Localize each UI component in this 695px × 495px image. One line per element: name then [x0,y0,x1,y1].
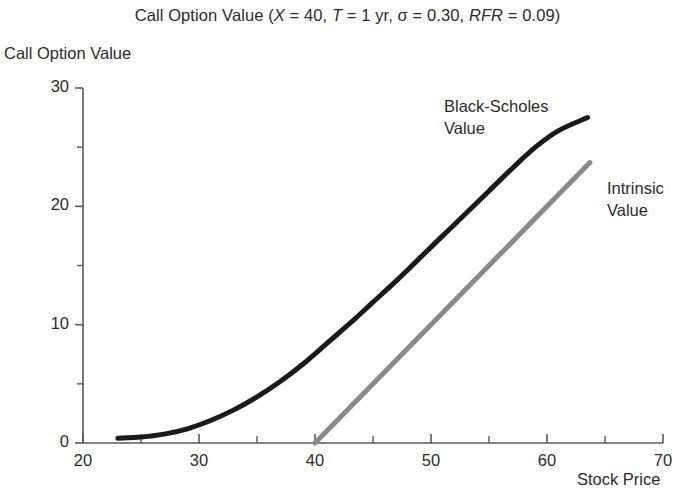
x-tick-label: 40 [295,451,335,470]
series-annotation-black-scholes: Black-Scholes Value [444,96,549,140]
x-tick-label: 50 [411,451,451,470]
y-axis-ticks [75,88,83,443]
plot-area [0,0,695,495]
x-tick-label: 20 [63,451,103,470]
y-tick-label: 20 [35,195,69,214]
y-tick-label: 10 [35,314,69,333]
series-annotation-intrinsic: Intrinsic Value [607,178,664,222]
x-tick-label: 60 [527,451,567,470]
intrinsic-label-line1: Intrinsic [607,178,664,200]
x-tick-label: 70 [643,451,683,470]
series-line-black-scholes [118,118,588,439]
black-scholes-label-line1: Black-Scholes [444,96,549,118]
x-tick-label: 30 [179,451,219,470]
black-scholes-label-line2: Value [444,118,549,140]
y-tick-label: 30 [35,77,69,96]
y-tick-label: 0 [35,432,69,451]
series-paths [118,118,590,443]
intrinsic-label-line2: Value [607,200,664,222]
axis-lines [83,88,663,443]
series-line-intrinsic [315,163,590,443]
chart-figure: Call Option Value (X = 40, T = 1 yr, σ =… [0,0,695,495]
